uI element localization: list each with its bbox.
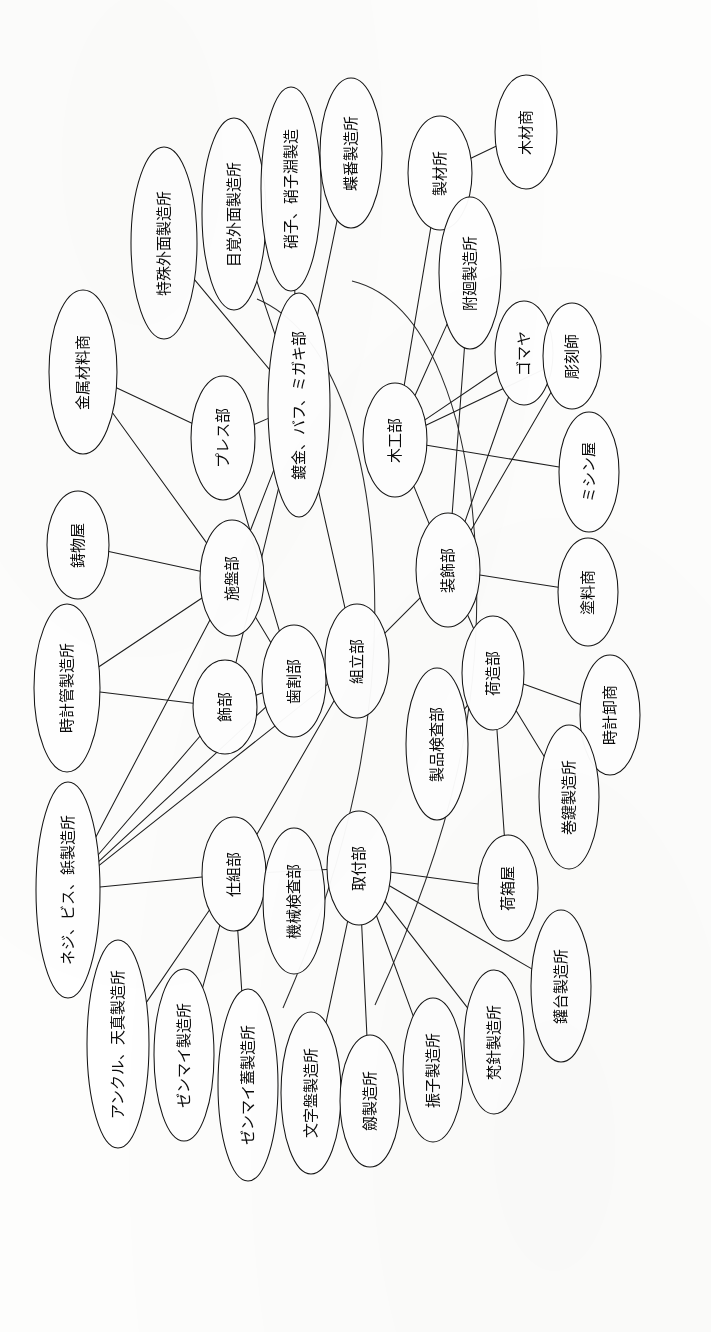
node-label: 塗料商 <box>579 570 597 615</box>
graph-node[interactable]: 巻鍵製造所 <box>539 725 599 869</box>
graph-node[interactable]: 施盤部 <box>200 520 264 636</box>
node-label: 時計管製造所 <box>58 643 76 733</box>
graph-edge <box>238 931 242 991</box>
graph-edge <box>318 220 338 315</box>
graph-node[interactable]: 目覚外面製造所 <box>202 118 266 310</box>
graph-edge <box>109 552 200 572</box>
graph-edge <box>480 575 558 587</box>
node-label: 鍍金、バフ、ミガキ部 <box>290 331 308 480</box>
graph-node[interactable]: アンクル、天真製造所 <box>87 940 149 1148</box>
graph-edge <box>427 445 559 467</box>
graph-edge <box>362 925 367 1036</box>
node-label: 彫刻師 <box>563 334 581 379</box>
network-graph: 金属材料商特殊外面製造所目覚外面製造所硝子、硝子淵製造蝶番製造所製材所木材商附廻… <box>0 0 711 1332</box>
graph-edge <box>471 392 551 530</box>
graph-node[interactable]: 装飾部 <box>416 513 480 627</box>
graph-edge <box>497 730 504 836</box>
node-label: 飾部 <box>216 692 234 722</box>
graph-node[interactable]: 鑵台製造所 <box>531 910 591 1062</box>
graph-node[interactable]: 金属材料商 <box>49 290 117 454</box>
graph-node[interactable]: ネジ、ビス、鋲製造所 <box>36 782 100 998</box>
node-label: 文字盤製造所 <box>302 1048 320 1138</box>
graph-edge <box>385 598 420 633</box>
graph-node[interactable]: 文字盤製造所 <box>281 1012 341 1174</box>
graph-node[interactable]: 仕組部 <box>202 817 266 931</box>
graph-node[interactable]: 振子製造所 <box>403 998 463 1142</box>
node-label: 取付部 <box>350 846 368 891</box>
graph-edge <box>326 921 348 1023</box>
node-label: 歯割部 <box>285 659 303 704</box>
graph-node[interactable]: 飾部 <box>193 660 257 754</box>
node-label: 荷箱屋 <box>499 866 517 911</box>
graph-edge <box>414 486 429 524</box>
graph-node[interactable]: ゼンマイ製造所 <box>154 969 214 1141</box>
graph-edge <box>516 711 544 757</box>
node-label: 巻鍵製造所 <box>560 760 578 835</box>
node-layer: 金属材料商特殊外面製造所目覚外面製造所硝子、硝子淵製造蝶番製造所製材所木材商附廻… <box>34 75 640 1181</box>
graph-node[interactable]: 特殊外面製造所 <box>131 147 197 339</box>
graph-edge <box>100 692 193 703</box>
node-label: 木材商 <box>517 110 535 155</box>
node-label: 装飾部 <box>439 548 457 593</box>
graph-node[interactable]: 荷箱屋 <box>478 835 538 941</box>
graph-edge <box>404 228 431 386</box>
graph-node[interactable]: ミシン屋 <box>559 412 619 532</box>
node-label: ゼンマイ製造所 <box>175 1003 193 1108</box>
node-label: ミシン屋 <box>580 442 598 502</box>
graph-node[interactable]: ゼンマイ蓋製造所 <box>218 989 278 1181</box>
graph-edge <box>452 348 464 514</box>
node-label: 製品検査部 <box>428 707 446 782</box>
graph-edge <box>468 615 474 629</box>
graph-edge <box>99 598 202 667</box>
node-label: 時計卸商 <box>601 685 619 745</box>
graph-node[interactable]: 取付部 <box>327 811 391 925</box>
graph-edge <box>391 872 478 884</box>
graph-node[interactable]: 組立部 <box>325 604 389 718</box>
node-label: 梵針製造所 <box>485 1005 503 1080</box>
node-label: 荷造部 <box>484 651 502 696</box>
graph-edge <box>425 371 497 420</box>
node-label: 施盤部 <box>223 556 241 601</box>
graph-node[interactable]: 蝶番製造所 <box>320 78 382 228</box>
graph-edge <box>203 925 220 987</box>
graph-edge <box>523 684 580 704</box>
node-label: 鑵台製造所 <box>552 949 570 1024</box>
graph-node[interactable]: 劔製造所 <box>340 1035 400 1167</box>
graph-edge <box>256 693 263 696</box>
graph-node[interactable]: 歯割部 <box>262 625 326 737</box>
graph-edge <box>116 388 192 424</box>
graph-node[interactable]: 荷造部 <box>462 616 524 730</box>
graph-edge <box>319 492 345 608</box>
node-label: 金属材料商 <box>74 335 92 410</box>
node-label: 目覚外面製造所 <box>225 162 243 267</box>
graph-node[interactable]: 塗料商 <box>558 538 618 646</box>
node-label: 振子製造所 <box>424 1033 442 1108</box>
graph-node[interactable]: 時計管製造所 <box>34 604 100 772</box>
graph-node[interactable]: 梵針製造所 <box>464 970 524 1114</box>
graph-node[interactable]: 機械検査部 <box>263 828 325 974</box>
node-label: 附廻製造所 <box>461 236 479 311</box>
node-label: 劔製造所 <box>361 1071 379 1131</box>
node-label: ゴマヤ <box>515 331 533 376</box>
graph-node[interactable]: 鍍金、バフ、ミガキ部 <box>268 293 330 517</box>
graph-node[interactable]: 木工部 <box>363 383 427 497</box>
graph-node[interactable]: 木材商 <box>495 75 557 189</box>
graph-node[interactable]: 製品検査部 <box>406 668 468 820</box>
graph-edge <box>98 736 200 855</box>
graph-node[interactable]: 附廻製造所 <box>439 197 501 349</box>
graph-node[interactable]: 硝子、硝子淵製造 <box>261 87 321 291</box>
node-label: 蝶番製造所 <box>342 116 360 191</box>
graph-node[interactable]: 鋳物屋 <box>47 491 109 599</box>
node-label: 鋳物屋 <box>69 523 87 568</box>
graph-node[interactable]: プレス部 <box>191 376 255 500</box>
node-label: プレス部 <box>214 408 232 468</box>
node-label: アンクル、天真製造所 <box>109 970 127 1119</box>
graph-node[interactable]: 彫刻師 <box>543 303 601 409</box>
node-label: 機械検査部 <box>285 864 303 939</box>
node-label: ゼンマイ蓋製造所 <box>239 1025 257 1145</box>
node-label: 仕組部 <box>225 852 243 897</box>
diagram-canvas: 金属材料商特殊外面製造所目覚外面製造所硝子、硝子淵製造蝶番製造所製材所木材商附廻… <box>0 0 711 1332</box>
graph-edge <box>256 617 271 642</box>
graph-edge <box>100 877 202 887</box>
node-label: 木工部 <box>386 418 404 463</box>
